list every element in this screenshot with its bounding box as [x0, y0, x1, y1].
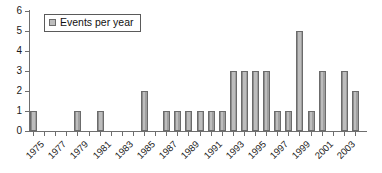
bar — [252, 71, 259, 131]
bar — [185, 111, 192, 131]
bar — [219, 111, 226, 131]
x-axis-tick — [122, 132, 123, 136]
x-axis-tick — [211, 132, 212, 136]
x-axis-tick — [277, 132, 278, 136]
x-axis-tick — [355, 132, 356, 136]
x-axis-tick — [44, 132, 45, 136]
y-axis-tick-label: 2 — [4, 86, 22, 96]
bar — [319, 71, 326, 131]
bar — [141, 91, 148, 131]
x-axis-tick — [89, 132, 90, 136]
y-axis-tick — [25, 51, 29, 52]
x-axis-tick — [77, 132, 78, 136]
bar — [74, 111, 81, 131]
y-axis-tick-label: 5 — [4, 26, 22, 36]
x-axis-tick — [299, 132, 300, 136]
x-axis-tick — [111, 132, 112, 136]
x-axis-tick — [100, 132, 101, 136]
legend-swatch-icon — [49, 19, 56, 26]
y-axis-tick — [25, 71, 29, 72]
y-axis-tick-label: 1 — [4, 106, 22, 116]
bar — [241, 71, 248, 131]
bar — [163, 111, 170, 131]
bar — [174, 111, 181, 131]
y-axis-tick — [25, 91, 29, 92]
x-axis-tick — [144, 132, 145, 136]
y-axis-tick — [25, 111, 29, 112]
x-axis-tick — [155, 132, 156, 136]
x-axis-line — [29, 131, 367, 132]
bar — [341, 71, 348, 131]
bar — [274, 111, 281, 131]
x-axis-tick — [311, 132, 312, 136]
y-axis-tick-label: 4 — [4, 46, 22, 56]
x-axis-tick — [177, 132, 178, 136]
y-axis-tick-label: 6 — [4, 6, 22, 16]
x-axis-tick — [166, 132, 167, 136]
x-axis-tick — [244, 132, 245, 136]
x-axis-tick — [200, 132, 201, 136]
bar — [285, 111, 292, 131]
x-axis-tick — [266, 132, 267, 136]
bar — [263, 71, 270, 131]
y-axis-tick — [25, 11, 29, 12]
x-axis-tick — [133, 132, 134, 136]
x-axis-tick — [322, 132, 323, 136]
x-axis-tick — [33, 132, 34, 136]
x-axis-tick — [333, 132, 334, 136]
bar-chart: 6543210 19751977197919811983198519871989… — [0, 0, 382, 173]
bar — [352, 91, 359, 131]
bar — [208, 111, 215, 131]
bar — [97, 111, 104, 131]
x-axis-tick — [288, 132, 289, 136]
chart-legend: Events per year — [44, 14, 141, 32]
x-axis-tick — [66, 132, 67, 136]
bar — [197, 111, 204, 131]
x-axis-tick — [255, 132, 256, 136]
x-axis-tick — [55, 132, 56, 136]
x-axis-tick — [344, 132, 345, 136]
y-axis-tick-label: 0 — [4, 126, 22, 136]
bar — [230, 71, 237, 131]
x-axis-tick — [188, 132, 189, 136]
y-axis-tick-label: 3 — [4, 66, 22, 76]
y-axis-tick — [25, 31, 29, 32]
x-axis-tick — [222, 132, 223, 136]
bar — [30, 111, 37, 131]
legend-label: Events per year — [60, 17, 134, 28]
bar — [296, 31, 303, 131]
bar — [308, 111, 315, 131]
y-axis-tick — [25, 131, 29, 132]
x-axis-tick — [233, 132, 234, 136]
